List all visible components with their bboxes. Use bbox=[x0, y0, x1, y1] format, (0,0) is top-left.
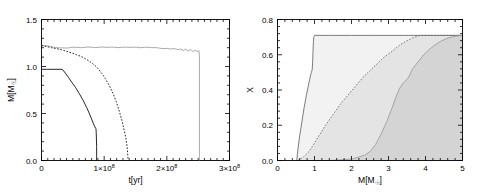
svg-text:2: 2 bbox=[349, 164, 354, 173]
figure-container: 01×1082×1083×1080.00.51.01.5t[yr]M[M☉] 0… bbox=[0, 0, 483, 192]
series-low-mass-black-solid bbox=[42, 69, 97, 160]
series-total-mass-gray-solid bbox=[42, 45, 200, 160]
svg-text:3×108: 3×108 bbox=[219, 163, 240, 173]
left-x-ticks bbox=[42, 20, 230, 161]
right-panel-svg: 0123450.00.20.40.60.8M[M☉]X bbox=[242, 0, 483, 192]
svg-text:0.4: 0.4 bbox=[262, 86, 274, 95]
right-fill-group bbox=[297, 35, 463, 160]
left-panel-svg: 01×1082×1083×1080.00.51.01.5t[yr]M[M☉] bbox=[0, 0, 242, 192]
left-axes-frame bbox=[42, 20, 230, 161]
left-yaxis-label: M[M☉] bbox=[6, 78, 17, 102]
svg-text:X: X bbox=[245, 87, 255, 93]
svg-text:0: 0 bbox=[39, 164, 44, 173]
svg-text:1×108: 1×108 bbox=[94, 163, 115, 173]
right-y-ticklabels: 0.00.20.40.60.8 bbox=[262, 16, 274, 166]
left-y-ticks bbox=[42, 20, 230, 161]
svg-text:0: 0 bbox=[275, 164, 280, 173]
svg-text:1.5: 1.5 bbox=[26, 16, 38, 25]
svg-text:1: 1 bbox=[312, 164, 317, 173]
left-x-ticklabels: 01×1082×1083×108 bbox=[39, 163, 240, 173]
svg-text:0.2: 0.2 bbox=[262, 121, 274, 130]
svg-text:0.6: 0.6 bbox=[262, 51, 274, 60]
svg-text:2×108: 2×108 bbox=[156, 163, 177, 173]
left-series-group bbox=[42, 45, 200, 160]
svg-text:1.0: 1.0 bbox=[26, 63, 38, 72]
left-panel: 01×1082×1083×1080.00.51.01.5t[yr]M[M☉] bbox=[0, 0, 242, 192]
svg-text:0.0: 0.0 bbox=[26, 157, 38, 166]
right-yaxis-label: X bbox=[245, 87, 255, 93]
svg-text:3: 3 bbox=[386, 164, 391, 173]
right-x-ticklabels: 012345 bbox=[275, 164, 465, 173]
svg-text:4: 4 bbox=[423, 164, 428, 173]
right-panel: 0123450.00.20.40.60.8M[M☉]X bbox=[242, 0, 483, 192]
svg-text:0.0: 0.0 bbox=[262, 157, 274, 166]
svg-text:5: 5 bbox=[460, 164, 465, 173]
svg-text:0.8: 0.8 bbox=[262, 16, 274, 25]
left-y-ticklabels: 0.00.51.01.5 bbox=[26, 16, 38, 166]
svg-text:0.5: 0.5 bbox=[26, 110, 38, 119]
right-xaxis-label: M[M☉] bbox=[358, 175, 382, 186]
svg-text:M[M☉]: M[M☉] bbox=[6, 78, 17, 102]
left-xaxis-label: t[yr] bbox=[128, 175, 142, 185]
